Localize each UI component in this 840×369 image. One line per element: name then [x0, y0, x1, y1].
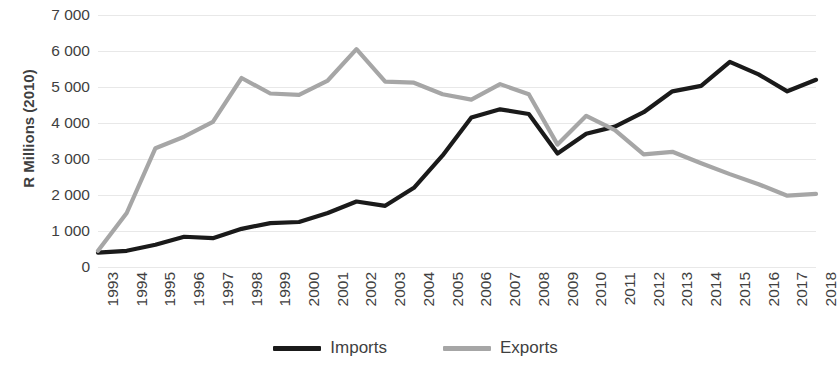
x-axis-tick-label: 1996: [190, 272, 208, 306]
x-axis-tick-label: 2006: [477, 272, 495, 306]
series-layer: [98, 15, 816, 267]
series-line-imports: [98, 62, 816, 253]
x-axis-tick-labels: 1993199419951996199719981999200020012002…: [98, 272, 816, 334]
plot-area: [98, 15, 816, 267]
x-axis-tick-label: 1993: [104, 272, 122, 306]
gridline: [98, 267, 816, 268]
x-axis-tick-label: 2010: [592, 272, 610, 306]
x-axis-tick-label: 1995: [161, 272, 179, 306]
x-axis-tick-label: 2000: [305, 272, 323, 306]
x-axis-tick-label: 1997: [219, 272, 237, 306]
x-axis-tick-label: 2009: [564, 272, 582, 306]
chart-legend: ImportsExports: [0, 338, 831, 358]
y-axis-tick-labels: 7 0006 0005 0004 0003 0002 0001 0000: [18, 0, 90, 280]
line-swatch-black: [273, 346, 321, 351]
y-axis-tick-label: 0: [18, 258, 90, 276]
y-axis-tick-label: 5 000: [18, 78, 90, 96]
x-axis-tick-label: 2017: [793, 272, 811, 306]
legend-item-exports[interactable]: Exports: [443, 338, 558, 358]
x-axis-tick-label: 2005: [449, 272, 467, 306]
x-axis-tick-label: 2011: [621, 272, 639, 305]
y-axis-tick-label: 7 000: [18, 6, 90, 24]
x-axis-tick-label: 2013: [678, 272, 696, 306]
x-axis-tick-label: 2002: [362, 272, 380, 306]
x-axis-tick-label: 1999: [276, 272, 294, 306]
x-axis-tick-label: 2016: [765, 272, 783, 306]
legend-label: Imports: [330, 338, 387, 358]
x-axis-tick-label: 2004: [420, 272, 438, 306]
y-axis-tick-label: 6 000: [18, 42, 90, 60]
x-axis-tick-label: 2003: [391, 272, 409, 306]
y-axis-tick-label: 1 000: [18, 222, 90, 240]
y-axis-tick-label: 4 000: [18, 114, 90, 132]
y-axis-tick-label: 3 000: [18, 150, 90, 168]
line-swatch-gray: [443, 346, 491, 351]
legend-item-imports[interactable]: Imports: [273, 338, 387, 358]
y-axis-tick-label: 2 000: [18, 186, 90, 204]
x-axis-tick-label: 2007: [506, 272, 524, 306]
x-axis-tick-label: 1994: [133, 272, 151, 306]
x-axis-tick-label: 2018: [822, 272, 840, 306]
legend-label: Exports: [500, 338, 558, 358]
x-axis-tick-label: 2014: [707, 272, 725, 306]
x-axis-tick-label: 2012: [650, 272, 668, 306]
x-axis-tick-label: 2008: [535, 272, 553, 306]
x-axis-tick-label: 1998: [248, 272, 266, 306]
x-axis-tick-label: 2015: [736, 272, 754, 306]
x-axis-tick-label: 2001: [334, 272, 352, 306]
